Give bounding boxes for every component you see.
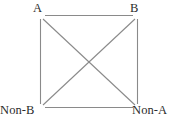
- vertex-label-b: B: [130, 2, 138, 15]
- vertex-label-a: A: [33, 2, 42, 15]
- vertex-label-non-b: Non-B: [0, 104, 35, 117]
- vertex-label-non-a: Non-A: [132, 104, 167, 117]
- square-of-opposition-diagram: A B Non-B Non-A: [0, 0, 180, 124]
